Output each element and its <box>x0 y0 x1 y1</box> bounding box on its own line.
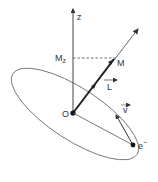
electron-point <box>131 143 136 148</box>
z-axis-label: z <box>77 12 82 22</box>
velocity-label: v <box>123 105 128 115</box>
l-vector-label: L <box>107 82 112 92</box>
origin-label: O <box>62 109 69 119</box>
mz-label: Mz <box>55 53 67 64</box>
electron-label: e− <box>138 139 147 151</box>
m-vector-label: M <box>117 58 125 68</box>
magnetic-moment-diagram: z Mz M L O <box>0 0 158 182</box>
